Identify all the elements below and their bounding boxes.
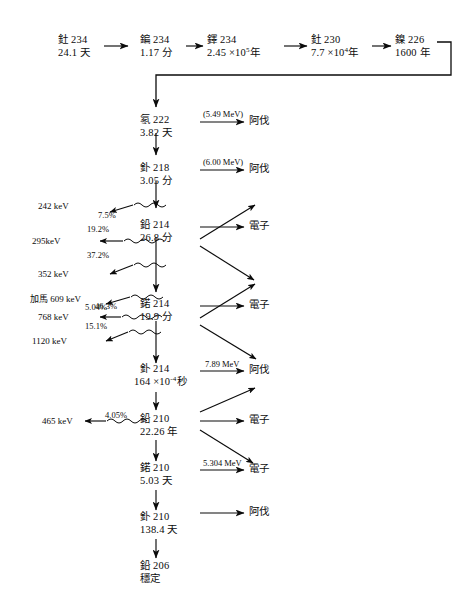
nuclide-u234-name: 鐸 234 — [207, 34, 260, 47]
nuclide-pb206: 鉛 206 穩定 — [140, 560, 169, 585]
nuclide-th230-name: 釷 230 — [311, 34, 359, 47]
nuclide-bi210: 鍩 210 5.03 天 — [140, 462, 172, 487]
nuclide-po210-name: 釙 210 — [140, 511, 178, 524]
gamma-1120-intensity: 15.1% — [85, 320, 107, 332]
nuclide-po218-halflife: 3.05 分 — [140, 175, 172, 188]
po214-hl-post: 秒 — [177, 376, 187, 387]
nuclide-pb210-halflife: 22.26 年 — [140, 426, 178, 439]
gamma-295-intensity: 19.2% — [87, 223, 109, 235]
emission-pb210-particle: 電子 — [249, 414, 269, 426]
nuclide-pa234: 鍽 234 1.17 分 — [140, 34, 172, 59]
nuclide-bi214-halflife: 19.9 分 — [140, 311, 172, 324]
nuclide-rn222-halflife: 3.82 天 — [140, 127, 172, 140]
gamma-768-intensity: 5.04% — [85, 301, 107, 313]
nuclide-pb206-halflife: 穩定 — [140, 573, 169, 586]
gamma-242-intensity: 7.5% — [98, 209, 116, 221]
emission-rn222-energy: (5.49 MeV) — [203, 108, 243, 120]
gamma-242-energy: 242 keV — [38, 200, 69, 212]
emission-po218-particle: 阿伐 — [249, 163, 269, 175]
emission-po214-particle: 阿伐 — [249, 364, 269, 376]
gamma-768-energy: 768 keV — [38, 311, 69, 323]
emission-bi214-particle: 電子 — [249, 299, 269, 311]
emission-bi210-particle: 電子 — [249, 463, 269, 475]
th230-hl-post: 年 — [348, 47, 358, 58]
nuclide-po210-halflife: 138.4 天 — [140, 524, 178, 537]
nuclide-th230-halflife: 7.7 ×104年 — [311, 47, 359, 60]
nuclide-pa234-halflife: 1.17 分 — [140, 47, 172, 60]
nuclide-th230: 釷 230 7.7 ×104年 — [311, 34, 359, 59]
nuclide-po218-name: 釙 218 — [140, 162, 172, 175]
u234-hl-pre: 2.45 ×10 — [207, 47, 246, 58]
nuclide-bi210-halflife: 5.03 天 — [140, 475, 172, 488]
u234-hl-post: 年 — [250, 47, 260, 58]
nuclide-rn222-name: 氡 222 — [140, 114, 172, 127]
gamma-295-energy: 295keV — [32, 235, 61, 247]
emission-bi210-energy: 5.304 MeV — [203, 457, 242, 469]
gamma-1120-energy: 1120 keV — [32, 335, 67, 347]
gamma-465-energy: 465 keV — [42, 415, 73, 427]
nuclide-pb214-name: 鉛 214 — [140, 219, 172, 232]
nuclide-ra226: 鎳 226 1600 年 — [395, 34, 430, 59]
gamma-609-energy: 加馬 609 keV — [30, 293, 81, 305]
emission-po214-energy: 7.89 MeV — [205, 358, 239, 370]
nuclide-po214: 釙 214 164 ×10-4秒 — [134, 363, 187, 388]
gamma-352-energy: 352 keV — [38, 268, 69, 280]
emission-rn222-particle: 阿伐 — [249, 115, 269, 127]
nuclide-pb206-name: 鉛 206 — [140, 560, 169, 573]
nuclide-bi210-name: 鍩 210 — [140, 462, 172, 475]
nuclide-u234: 鐸 234 2.45 ×105年 — [207, 34, 260, 59]
nuclide-po214-halflife: 164 ×10-4秒 — [134, 376, 187, 389]
nuclide-pb210: 鉛 210 22.26 年 — [140, 413, 178, 438]
nuclide-po218: 釙 218 3.05 分 — [140, 162, 172, 187]
th230-hl-pre: 7.7 ×10 — [311, 47, 345, 58]
nuclide-po214-name: 釙 214 — [140, 363, 187, 376]
nuclide-pb210-name: 鉛 210 — [140, 413, 178, 426]
emission-po218-energy: (6.00 MeV) — [203, 156, 243, 168]
nuclide-th234-name: 釷 234 — [58, 34, 90, 47]
gamma-352-intensity: 37.2% — [87, 249, 109, 261]
nuclide-th234-halflife: 24.1 天 — [58, 47, 90, 60]
decay-chain-diagram: 釷 234 24.1 天 鍽 234 1.17 分 鐸 234 2.45 ×10… — [0, 0, 462, 601]
emission-pb214-particle: 電子 — [249, 220, 269, 232]
nuclide-bi214: 鍩 214 19.9 分 — [140, 298, 172, 323]
gamma-465-intensity: 4.05% — [105, 409, 127, 421]
nuclide-rn222: 氡 222 3.82 天 — [140, 114, 172, 139]
nuclide-ra226-name: 鎳 226 — [395, 34, 430, 47]
nuclide-pb214-halflife: 26.8 分 — [140, 232, 172, 245]
po214-hl-pre: 164 ×10 — [134, 376, 170, 387]
nuclide-pa234-name: 鍽 234 — [140, 34, 172, 47]
nuclide-th234: 釷 234 24.1 天 — [58, 34, 90, 59]
nuclide-ra226-halflife: 1600 年 — [395, 47, 430, 60]
emission-po210-particle: 阿伐 — [249, 506, 269, 518]
nuclide-pb214: 鉛 214 26.8 分 — [140, 219, 172, 244]
nuclide-po210: 釙 210 138.4 天 — [140, 511, 178, 536]
nuclide-u234-halflife: 2.45 ×105年 — [207, 47, 260, 60]
nuclide-bi214-name: 鍩 214 — [140, 298, 172, 311]
